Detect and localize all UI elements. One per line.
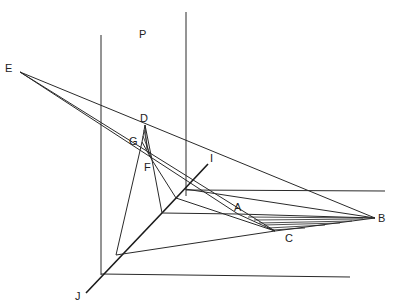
axis-I — [162, 164, 208, 213]
label-B: B — [378, 212, 385, 224]
perspective-diagram: E P D G F I A B C J — [0, 0, 395, 307]
label-A: A — [234, 201, 242, 213]
label-E: E — [5, 62, 12, 74]
line-J-C — [116, 231, 275, 255]
label-J: J — [75, 290, 81, 302]
label-G: G — [129, 135, 138, 147]
line-O-A — [162, 213, 238, 214]
ground-line-lower — [101, 274, 350, 277]
label-P: P — [139, 28, 146, 40]
label-D: D — [140, 112, 148, 124]
triangle-ABC — [238, 214, 375, 231]
label-F: F — [144, 161, 151, 173]
label-I: I — [210, 152, 213, 164]
ray-E-B — [20, 72, 375, 218]
axis-J — [86, 213, 162, 293]
label-C: C — [285, 232, 293, 244]
ground-line-upper — [186, 190, 385, 191]
